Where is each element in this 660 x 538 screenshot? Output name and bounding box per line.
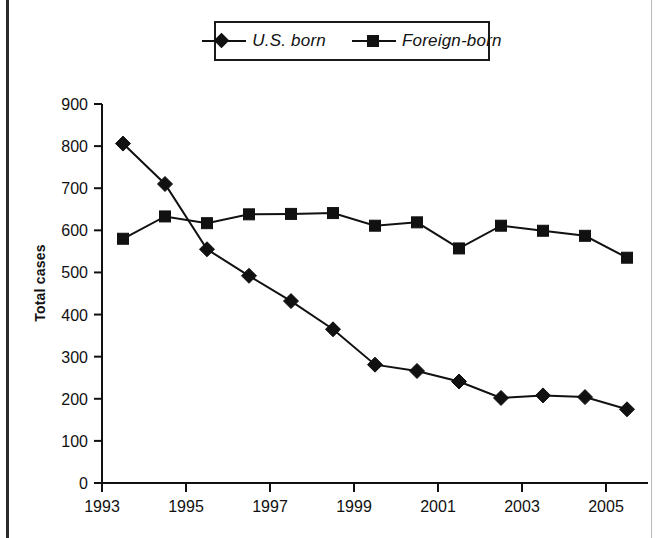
x-tick-label: 1999 xyxy=(336,498,372,515)
y-tick-label: 400 xyxy=(61,307,88,324)
data-point-diamond xyxy=(200,242,215,257)
data-series-layer xyxy=(116,136,635,417)
y-axis-ticks: 0100200300400500600700800900 xyxy=(61,96,102,492)
data-point-square xyxy=(496,220,507,231)
data-point-square xyxy=(580,230,591,241)
data-point-square xyxy=(538,225,549,236)
data-point-diamond xyxy=(536,388,551,403)
data-point-diamond xyxy=(284,294,299,309)
x-tick-label: 2003 xyxy=(504,498,540,515)
data-point-diamond xyxy=(410,363,425,378)
x-axis-ticks: 1993199519971999200120032005 xyxy=(84,483,624,515)
x-tick-label: 1997 xyxy=(252,498,288,515)
data-point-square xyxy=(328,208,339,219)
data-point-diamond xyxy=(452,374,467,389)
data-point-diamond xyxy=(620,402,635,417)
plot-area: 0100200300400500600700800900 19931995199… xyxy=(0,0,660,538)
y-tick-label: 100 xyxy=(61,433,88,450)
data-point-diamond xyxy=(494,390,509,405)
data-point-square xyxy=(118,233,129,244)
x-tick-label: 1993 xyxy=(84,498,120,515)
x-tick-label: 1995 xyxy=(168,498,204,515)
data-point-square xyxy=(370,220,381,231)
y-tick-label: 600 xyxy=(61,222,88,239)
y-tick-label: 900 xyxy=(61,96,88,113)
data-point-square xyxy=(202,218,213,229)
x-tick-label: 2005 xyxy=(588,498,624,515)
data-point-square xyxy=(286,208,297,219)
data-point-square xyxy=(454,243,465,254)
y-tick-label: 300 xyxy=(61,349,88,366)
data-point-square xyxy=(160,211,171,222)
y-tick-label: 800 xyxy=(61,138,88,155)
y-tick-label: 0 xyxy=(79,475,88,492)
data-point-square xyxy=(622,252,633,263)
y-tick-label: 500 xyxy=(61,264,88,281)
data-point-diamond xyxy=(242,268,257,283)
data-point-square xyxy=(412,217,423,228)
y-tick-label: 700 xyxy=(61,180,88,197)
chart-page: U.S. born Foreign-born Total cases 01002… xyxy=(0,0,660,538)
y-tick-label: 200 xyxy=(61,391,88,408)
data-point-diamond xyxy=(578,390,593,405)
data-point-square xyxy=(244,209,255,220)
x-tick-label: 2001 xyxy=(420,498,456,515)
line-chart-figure: U.S. born Foreign-born Total cases 01002… xyxy=(0,0,660,538)
